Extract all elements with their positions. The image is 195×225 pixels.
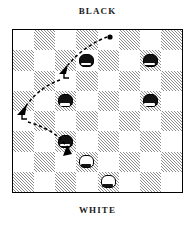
board-square-c2-r7: [55, 172, 76, 192]
board-square-c1-r2: [34, 71, 55, 91]
board-square-c6-r5: [140, 131, 161, 151]
board-square-c4-r3: [98, 91, 119, 111]
board-square-c4-r5: [98, 131, 119, 151]
board-square-c0-r6: [13, 152, 34, 172]
board-square-c3-r2: [76, 71, 97, 91]
board-square-c7-r7: [161, 172, 182, 192]
piece-band-icon: [81, 63, 92, 66]
board-square-c6-r6: [140, 152, 161, 172]
board-square-c3-r0: [76, 30, 97, 50]
board-square-c6-r0: [140, 30, 161, 50]
board-square-c1-r4: [34, 111, 55, 131]
board-label-white: WHITE: [0, 205, 195, 215]
board-square-c0-r3: [13, 91, 34, 111]
board-square-c3-r7: [76, 172, 97, 192]
board-square-c5-r2: [119, 71, 140, 91]
board-square-c7-r6: [161, 152, 182, 172]
board-square-c3-r3: [76, 91, 97, 111]
board-square-c2-r6: [55, 152, 76, 172]
diagram-root: BLACK WHITE: [0, 0, 195, 225]
board-square-c4-r4: [98, 111, 119, 131]
board-square-c4-r1: [98, 50, 119, 70]
board-square-c2-r0: [55, 30, 76, 50]
board-square-c5-r3: [119, 91, 140, 111]
board-square-c1-r7: [34, 172, 55, 192]
piece-black-c6-r3[interactable]: [143, 94, 158, 107]
piece-band-icon: [81, 164, 92, 167]
board-square-c3-r4: [76, 111, 97, 131]
board-square-c5-r1: [119, 50, 140, 70]
piece-band-icon: [60, 144, 71, 147]
piece-band-icon: [60, 103, 71, 106]
board-square-c6-r7: [140, 172, 161, 192]
piece-white-c3-r6[interactable]: [79, 155, 94, 168]
board-square-c0-r0: [13, 30, 34, 50]
board-square-c3-r5: [76, 131, 97, 151]
board-square-c1-r5: [34, 131, 55, 151]
board-square-c4-r0: [98, 30, 119, 50]
board-square-c7-r4: [161, 111, 182, 131]
piece-band-icon: [144, 103, 155, 106]
board-square-c2-r1: [55, 50, 76, 70]
board-square-c5-r0: [119, 30, 140, 50]
piece-black-c2-r3[interactable]: [58, 94, 73, 107]
board-square-c1-r0: [34, 30, 55, 50]
piece-black-c2-r5[interactable]: [58, 135, 73, 148]
checkerboard: [12, 29, 183, 193]
piece-band-icon: [102, 184, 113, 187]
board-square-c5-r6: [119, 152, 140, 172]
board-square-c1-r6: [34, 152, 55, 172]
board-square-c6-r4: [140, 111, 161, 131]
piece-black-c6-r1[interactable]: [143, 54, 158, 67]
board-square-c7-r1: [161, 50, 182, 70]
piece-white-c4-r7[interactable]: [101, 175, 116, 188]
board-square-c0-r4: [13, 111, 34, 131]
board-square-c1-r3: [34, 91, 55, 111]
board-square-c0-r5: [13, 131, 34, 151]
board-square-c5-r4: [119, 111, 140, 131]
board-square-c5-r5: [119, 131, 140, 151]
board-square-c0-r2: [13, 71, 34, 91]
piece-band-icon: [144, 63, 155, 66]
board-square-c6-r2: [140, 71, 161, 91]
board-square-c1-r1: [34, 50, 55, 70]
board-square-c0-r1: [13, 50, 34, 70]
board-square-c4-r2: [98, 71, 119, 91]
piece-black-c3-r1[interactable]: [79, 54, 94, 67]
board-square-c7-r3: [161, 91, 182, 111]
board-square-c7-r2: [161, 71, 182, 91]
board-label-black: BLACK: [0, 6, 195, 16]
board-square-c2-r4: [55, 111, 76, 131]
board-square-c5-r7: [119, 172, 140, 192]
board-square-c4-r6: [98, 152, 119, 172]
board-square-c7-r5: [161, 131, 182, 151]
board-square-c7-r0: [161, 30, 182, 50]
board-square-c0-r7: [13, 172, 34, 192]
board-square-c2-r2: [55, 71, 76, 91]
